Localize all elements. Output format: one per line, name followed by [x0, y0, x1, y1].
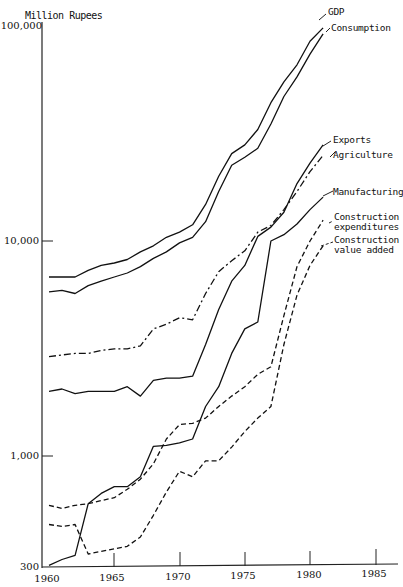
- series-construction-value-added-line: [49, 246, 323, 554]
- legend-construction-value-added-line2: value added: [334, 245, 399, 255]
- x-tick-label-1970: 1970: [158, 571, 198, 582]
- legend-construction-expenditures-line2: expenditures: [334, 222, 399, 232]
- legend-exports: Exports: [333, 135, 371, 145]
- legend-manufacturing: Manufacturing: [333, 187, 403, 197]
- y-tick-label-100000: 100,000: [0, 20, 42, 31]
- series-exports-line: [49, 197, 323, 565]
- x-tick-label-1965: 1965: [92, 572, 132, 583]
- legend-consumption: Consumption: [331, 23, 391, 33]
- series-construction-expenditures-line: [49, 220, 323, 508]
- legend-gdp: GDP: [328, 7, 344, 17]
- y-tick-label-10000: 10,000: [0, 235, 39, 246]
- series-agriculture-line: [49, 155, 323, 356]
- x-tick-label-1975: 1975: [223, 570, 263, 581]
- x-axis: [42, 564, 398, 567]
- legend-construction-expenditures: Construction expenditures: [334, 212, 399, 232]
- x-tick-label-1960: 1960: [27, 573, 67, 584]
- legend-leader-lines: [319, 14, 335, 246]
- legend-construction-value-added: Construction value added: [334, 235, 399, 255]
- legend-agriculture: Agriculture: [333, 150, 393, 160]
- x-tick-label-1980: 1980: [289, 569, 329, 580]
- y-tick-label-1000: 1,000: [0, 450, 39, 461]
- series-layer: [49, 28, 323, 566]
- series-consumption-line: [49, 34, 323, 294]
- y-tick-label-300: 300: [0, 561, 39, 572]
- series-manufacturing-line: [49, 145, 323, 396]
- axes: [42, 22, 398, 568]
- x-tick-label-1985: 1985: [354, 568, 394, 579]
